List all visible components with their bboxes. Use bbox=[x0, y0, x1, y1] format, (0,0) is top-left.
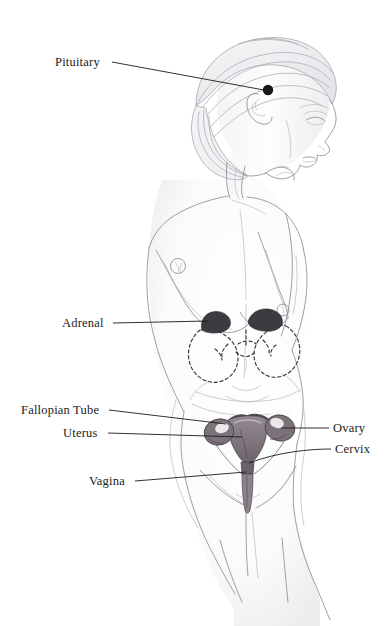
label-pituitary[interactable]: Pituitary bbox=[55, 55, 100, 69]
label-adrenal[interactable]: Adrenal bbox=[62, 316, 104, 330]
female-figure-body bbox=[147, 38, 336, 626]
pituitary-gland-marker bbox=[263, 85, 273, 95]
torso-fill bbox=[149, 178, 321, 626]
label-uterus[interactable]: Uterus bbox=[63, 426, 98, 440]
diagram-canvas: Pituitary Adrenal Fallopian Tube Uterus … bbox=[0, 0, 391, 626]
label-vagina[interactable]: Vagina bbox=[89, 474, 125, 488]
label-ovary[interactable]: Ovary bbox=[333, 421, 366, 435]
label-cervix[interactable]: Cervix bbox=[335, 442, 371, 456]
anatomy-illustration: Pituitary Adrenal Fallopian Tube Uterus … bbox=[0, 0, 391, 626]
label-fallopian-tube[interactable]: Fallopian Tube bbox=[21, 403, 99, 417]
